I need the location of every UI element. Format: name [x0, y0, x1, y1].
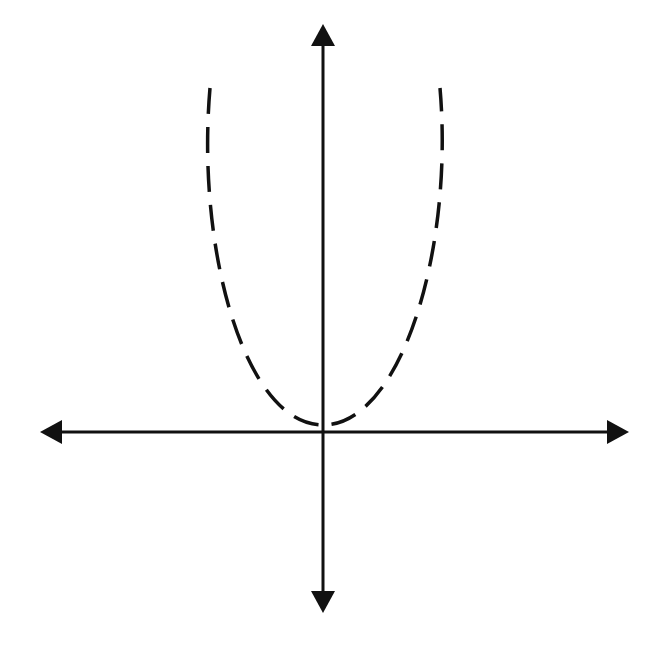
graph-canvas: [0, 0, 663, 652]
x-axis-right-arrow-icon: [607, 420, 629, 444]
x-axis-left-arrow-icon: [40, 420, 62, 444]
y-axis-down-arrow-icon: [311, 591, 335, 613]
y-axis-up-arrow-icon: [311, 24, 335, 46]
parabola-curve: [208, 88, 443, 425]
